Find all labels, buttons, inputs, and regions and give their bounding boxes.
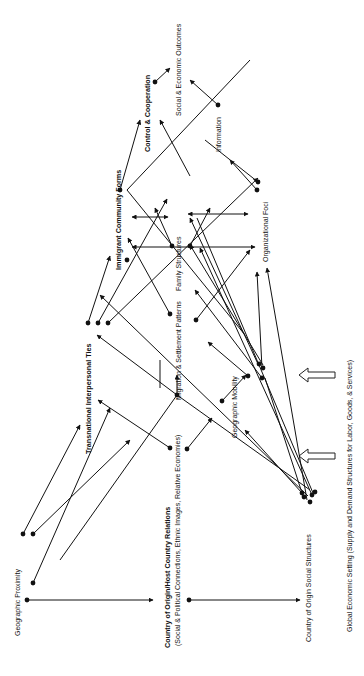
label-country-origin-social: Country of Origin Social Structures: [305, 534, 313, 642]
label-information: Information: [215, 117, 222, 152]
label-global-setting: Global Economic Setting (Supply and Dema…: [346, 360, 354, 632]
label-social-economic-outcomes: Social & Economic Outcomes: [175, 23, 182, 116]
label-transnational-ties: Transnational Interpersonal Ties: [84, 343, 93, 454]
causal-flow-diagram: Geographic Proximity Country of Origin/H…: [0, 0, 364, 676]
label-country-relations-sub: (Social & Political Connections, Ethnic …: [174, 435, 182, 646]
label-control-cooperation: Control & Cooperation: [143, 75, 152, 152]
label-migration-settlement: Migration & Settlement Patterns: [175, 301, 183, 400]
label-country-relations-title: Country of Origin/Host Country Relations: [163, 507, 172, 648]
label-organizational-foci: Organizational Foci: [262, 201, 270, 262]
hollow-arrow-lower: [299, 449, 335, 463]
label-family-structures: Family Structures: [175, 236, 183, 291]
label-geographic-proximity: Geographic Proximity: [14, 569, 22, 636]
hollow-arrow-upper: [299, 368, 335, 382]
